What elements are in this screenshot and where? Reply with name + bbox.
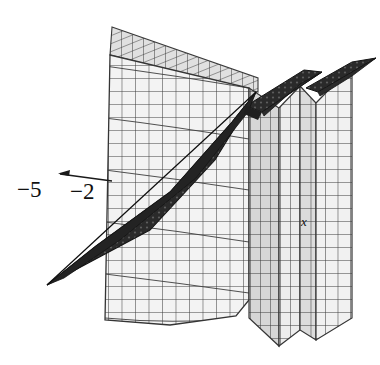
tick-label-minus-two: −2 [70, 180, 94, 203]
axis-label-x: x [301, 215, 307, 228]
tick-label-minus-five: −5 [17, 178, 41, 201]
plot-canvas [0, 0, 380, 365]
surface-plot-figure: −5 −2 x [0, 0, 380, 365]
mesh-panel-right-front [312, 60, 360, 350]
